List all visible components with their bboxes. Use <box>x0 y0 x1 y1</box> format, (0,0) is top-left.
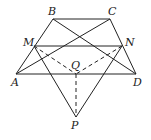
point-label-m: M <box>22 36 35 49</box>
figure-svg: BCMNADQP <box>0 0 151 140</box>
segment-mp <box>34 46 76 117</box>
point-label-n: N <box>124 36 135 49</box>
point-label-c: C <box>108 5 117 18</box>
point-label-d: D <box>132 76 142 89</box>
segment-np <box>76 46 122 117</box>
geometry-diagram: BCMNADQP <box>0 0 151 140</box>
point-label-q: Q <box>71 59 80 72</box>
point-label-a: A <box>10 76 19 89</box>
point-label-p: P <box>70 119 79 132</box>
point-label-b: B <box>47 5 56 18</box>
